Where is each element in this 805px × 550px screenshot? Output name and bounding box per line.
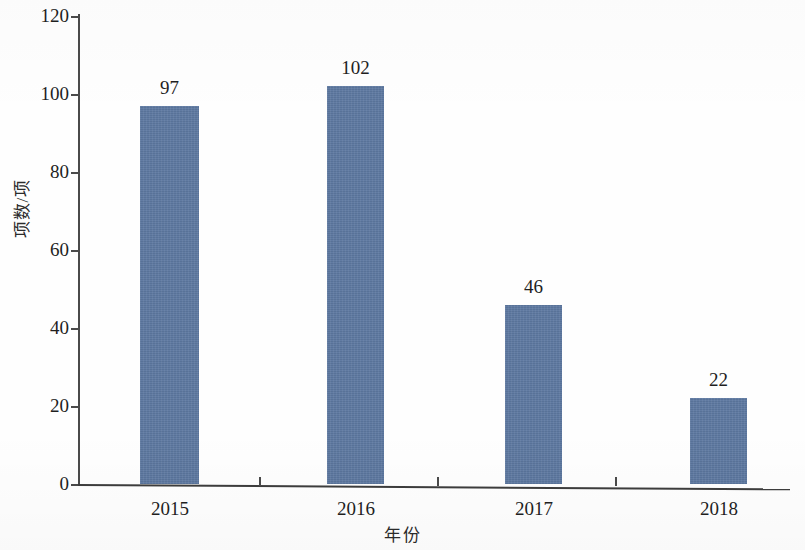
x-category-label-2016: 2016: [337, 498, 375, 520]
y-tick-label: 40: [50, 317, 69, 339]
y-tick-label: 120: [41, 5, 70, 27]
x-tick-mark: [615, 477, 617, 486]
y-tick-label: 80: [50, 161, 69, 183]
bar-2017: 46: [505, 305, 562, 484]
bar-value-label: 97: [160, 77, 179, 99]
y-tick-mark: [71, 172, 78, 174]
x-category-label-2015: 2015: [151, 498, 189, 520]
plot-area: 0 20 40 60 80 100 120: [78, 14, 790, 486]
y-tick-mark: [71, 250, 78, 252]
y-tick-label: 0: [60, 473, 70, 495]
bar-2015: 97: [140, 106, 199, 484]
y-tick-label: 100: [41, 83, 70, 105]
x-tick-mark: [437, 477, 439, 486]
x-category-label-2018: 2018: [700, 498, 738, 520]
bar-2018: 22: [690, 398, 747, 484]
bar-value-label: 102: [341, 57, 370, 79]
y-axis-title: 项数/项: [8, 149, 33, 269]
x-category-label-2017: 2017: [515, 498, 553, 520]
bar-chart: 项数/项 0 20 40 60 80 100: [0, 0, 805, 550]
x-axis-title: 年份: [0, 521, 805, 546]
y-tick-mark: [71, 484, 78, 486]
bar-value-label: 46: [524, 276, 543, 298]
y-tick-mark: [71, 94, 78, 96]
y-tick-label: 60: [50, 239, 69, 261]
bar-value-label: 22: [709, 369, 728, 391]
x-axis-line: [78, 484, 790, 490]
y-tick-mark: [71, 16, 78, 18]
y-tick-label: 20: [50, 395, 69, 417]
y-tick-mark: [71, 406, 78, 408]
bar-2016: 102: [327, 86, 384, 484]
y-tick-mark: [71, 328, 78, 330]
y-axis-line: [78, 14, 80, 486]
x-tick-mark: [259, 477, 261, 486]
